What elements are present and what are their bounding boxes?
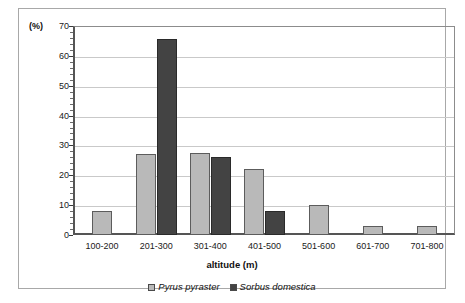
bar-series-container <box>75 26 454 235</box>
x-axis-tick-label: 201-300 <box>129 241 183 251</box>
x-axis-title: altitude (m) <box>19 259 445 270</box>
x-axis-tick-label: 301-400 <box>183 241 237 251</box>
bar-group <box>183 26 237 235</box>
bar <box>244 169 264 235</box>
legend-swatch <box>230 284 237 291</box>
bar-group <box>237 26 291 235</box>
bar-group <box>75 26 129 235</box>
y-axis-tick-label: 40 <box>47 111 69 121</box>
x-axis-tick-label: 501-600 <box>292 241 346 251</box>
bar <box>265 211 285 235</box>
legend-label: Pyrus pyraster <box>158 281 219 292</box>
y-axis-tick-label: 0 <box>47 230 69 240</box>
chart-frame: (%) 010203040506070 100-200201-300301-40… <box>18 8 446 289</box>
bar-group <box>346 26 400 235</box>
x-axis-tick-labels: 100-200201-300301-400401-500501-600601-7… <box>75 241 454 255</box>
x-axis-tick-label: 401-500 <box>237 241 291 251</box>
y-axis-tick-labels: 010203040506070 <box>41 26 69 235</box>
bar-group <box>292 26 346 235</box>
bar <box>190 153 210 235</box>
x-axis-tick-label: 100-200 <box>75 241 129 251</box>
y-axis-tick-label: 10 <box>47 200 69 210</box>
bar <box>417 226 437 235</box>
bar-group <box>400 26 454 235</box>
bar <box>136 154 156 235</box>
legend-swatch <box>148 284 155 291</box>
y-axis-tick-label: 20 <box>47 170 69 180</box>
x-axis-tick-label: 601-700 <box>346 241 400 251</box>
y-axis-major-tick <box>69 235 73 236</box>
y-axis-tick-label: 70 <box>47 21 69 31</box>
y-axis-tick-label: 30 <box>47 140 69 150</box>
bar <box>157 39 177 235</box>
bar-group <box>129 26 183 235</box>
bar <box>92 211 112 235</box>
bar <box>363 226 383 235</box>
y-axis-tick-label: 50 <box>47 81 69 91</box>
bar <box>211 157 231 235</box>
bar <box>309 205 329 235</box>
legend-item: Sorbus domestica <box>230 281 316 292</box>
y-axis-tick-label: 60 <box>47 51 69 61</box>
chart-legend: Pyrus pyrasterSorbus domestica <box>19 281 445 292</box>
legend-item: Pyrus pyraster <box>148 281 219 292</box>
legend-label: Sorbus domestica <box>240 281 316 292</box>
x-axis-tick-label: 701-800 <box>400 241 454 251</box>
